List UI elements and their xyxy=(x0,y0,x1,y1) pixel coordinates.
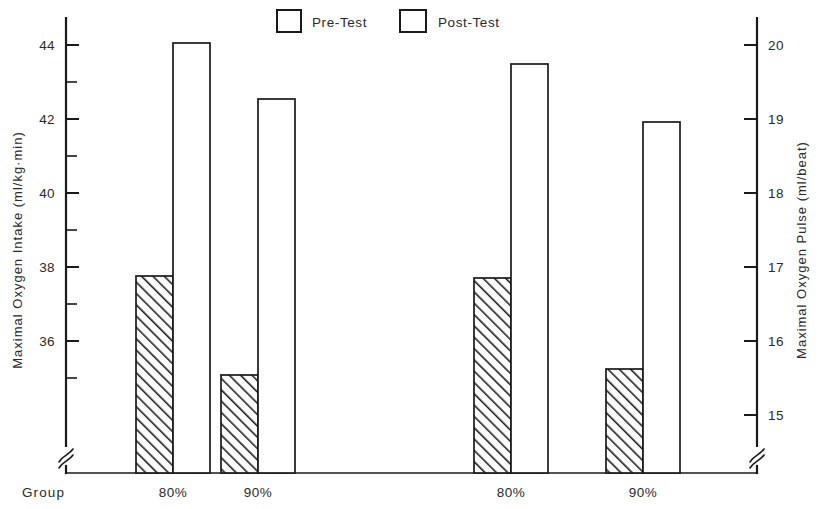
bar-pre-test-panel2-80 xyxy=(474,278,511,473)
bar-post-test-panel1-80 xyxy=(173,43,210,473)
legend-label-post-test: Post-Test xyxy=(438,15,500,30)
left-tick-label-42: 42 xyxy=(39,112,55,127)
bar-chart-canvas: Pre-Test Post-Test xyxy=(0,0,824,509)
bar-post-test-panel2-80 xyxy=(511,64,548,473)
legend-item-pre-test: Pre-Test xyxy=(277,10,367,32)
right-tick-label-17: 17 xyxy=(768,260,784,275)
right-tick-label-15: 15 xyxy=(768,408,784,423)
x-label-panel1-80: 80% xyxy=(159,485,188,500)
x-label-panel2-80: 80% xyxy=(497,485,526,500)
right-axis: 20 19 18 17 16 15 Maximal Oxygen Pulse (… xyxy=(744,18,809,473)
bar-post-test-panel2-90 xyxy=(643,122,680,473)
right-tick-label-19: 19 xyxy=(768,112,784,127)
chart-figure: Pre-Test Post-Test xyxy=(0,0,824,509)
x-label-panel2-90: 90% xyxy=(629,485,658,500)
bar-pre-test-panel1-80 xyxy=(136,276,173,473)
bar-pre-test-panel1-90 xyxy=(221,375,258,473)
bar-pre-test-panel2-90 xyxy=(606,369,643,473)
left-tick-label-44: 44 xyxy=(39,38,55,53)
legend-label-pre-test: Pre-Test xyxy=(312,15,367,30)
right-tick-label-16: 16 xyxy=(768,334,784,349)
left-tick-label-38: 38 xyxy=(39,260,55,275)
x-axis-group-label: Group xyxy=(22,485,65,500)
bar-group-panel2-80 xyxy=(474,64,548,473)
bar-group-panel1-90 xyxy=(221,99,295,473)
x-label-panel1-90: 90% xyxy=(244,485,273,500)
x-axis-labels: Group 80% 90% 80% 90% xyxy=(22,485,657,500)
right-tick-label-20: 20 xyxy=(768,38,784,53)
legend-item-post-test: Post-Test xyxy=(400,10,500,32)
bar-post-test-panel1-90 xyxy=(258,99,295,473)
left-axis: 44 42 40 38 36 Maximal Oxygen Intake (ml… xyxy=(10,18,79,473)
left-axis-title: Maximal Oxygen Intake (ml/kg·min) xyxy=(10,131,25,368)
empty-swatch xyxy=(400,10,426,32)
left-tick-label-36: 36 xyxy=(39,334,55,349)
bar-group-panel1-80 xyxy=(136,43,210,473)
hatched-swatch xyxy=(277,10,301,32)
chart-legend: Pre-Test Post-Test xyxy=(277,10,500,32)
bar-group-panel2-90 xyxy=(606,122,680,473)
right-tick-label-18: 18 xyxy=(768,186,784,201)
right-axis-title: Maximal Oxygen Pulse (ml/beat) xyxy=(794,141,809,359)
left-tick-label-40: 40 xyxy=(39,186,55,201)
